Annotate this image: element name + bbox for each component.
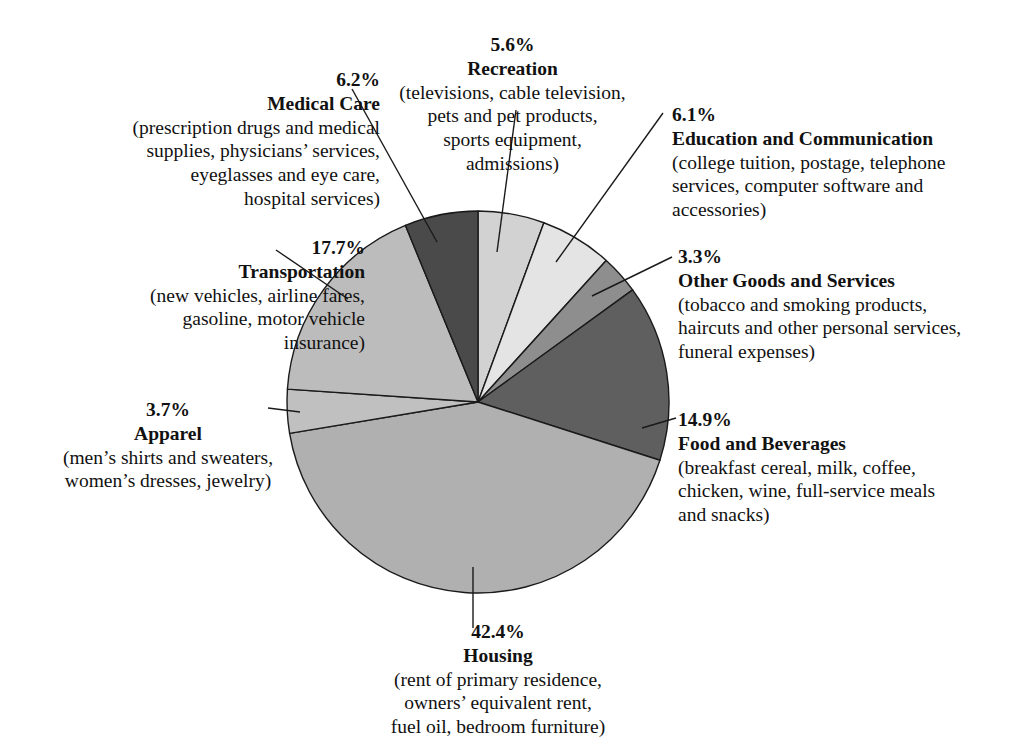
desc-other-goods-line2: haircuts and other personal services, (678, 316, 1008, 340)
label-medical-care: 6.2% Medical Care (prescription drugs an… (38, 68, 380, 211)
label-transportation: 17.7% Transportation (new vehicles, airl… (30, 236, 365, 355)
desc-other-goods-line3: funeral expenses) (678, 340, 1008, 364)
percent-food: 14.9% (678, 408, 1008, 432)
desc-education-line1: (college tuition, postage, telephone (672, 151, 1002, 175)
desc-transportation-line2: gasoline, motor vehicle (30, 307, 365, 331)
label-apparel: 3.7% Apparel (men’s shirts and sweaters,… (18, 398, 318, 493)
percent-housing: 42.4% (338, 620, 658, 644)
percent-medical-care: 6.2% (38, 68, 380, 92)
label-food-beverages: 14.9% Food and Beverages (breakfast cere… (678, 408, 1008, 527)
desc-other-goods-line1: (tobacco and smoking products, (678, 293, 1008, 317)
category-housing: Housing (338, 644, 658, 668)
category-apparel: Apparel (18, 422, 318, 446)
desc-housing-line1: (rent of primary residence, (338, 668, 658, 692)
desc-housing-line2: owners’ equivalent rent, (338, 691, 658, 715)
desc-recreation-line3: sports equipment, (370, 128, 655, 152)
category-food: Food and Beverages (678, 432, 1008, 456)
desc-medical-care-line1: (prescription drugs and medical (38, 116, 380, 140)
desc-apparel-line1: (men’s shirts and sweaters, (18, 446, 318, 470)
desc-education-line3: accessories) (672, 198, 1002, 222)
label-education-communication: 6.1% Education and Communication (colleg… (672, 103, 1002, 222)
desc-medical-care-line2: supplies, physicians’ services, (38, 139, 380, 163)
category-medical-care: Medical Care (38, 92, 380, 116)
desc-transportation-line1: (new vehicles, airline fares, (30, 284, 365, 308)
percent-transportation: 17.7% (30, 236, 365, 260)
category-other-goods: Other Goods and Services (678, 269, 1008, 293)
category-transportation: Transportation (30, 260, 365, 284)
category-recreation: Recreation (370, 57, 655, 81)
desc-food-line3: and snacks) (678, 503, 1008, 527)
label-housing: 42.4% Housing (rent of primary residence… (338, 620, 658, 739)
top-page-margin (0, 0, 1014, 14)
desc-apparel-line2: women’s dresses, jewelry) (18, 469, 318, 493)
label-recreation: 5.6% Recreation (televisions, cable tele… (370, 33, 655, 176)
desc-transportation-line3: insurance) (30, 331, 365, 355)
desc-housing-line3: fuel oil, bedroom furniture) (338, 715, 658, 739)
desc-food-line2: chicken, wine, full-service meals (678, 479, 1008, 503)
desc-recreation-line4: admissions) (370, 152, 655, 176)
desc-recreation-line2: pets and pet products, (370, 104, 655, 128)
category-education: Education and Communication (672, 127, 1002, 151)
percent-recreation: 5.6% (370, 33, 655, 57)
percent-education: 6.1% (672, 103, 1002, 127)
desc-education-line2: services, computer software and (672, 174, 1002, 198)
percent-apparel: 3.7% (18, 398, 318, 422)
desc-medical-care-line3: eyeglasses and eye care, (38, 163, 380, 187)
percent-other-goods: 3.3% (678, 245, 1008, 269)
desc-food-line1: (breakfast cereal, milk, coffee, (678, 456, 1008, 480)
desc-recreation-line1: (televisions, cable television, (370, 81, 655, 105)
pie-chart-figure: 6.2% Medical Care (prescription drugs an… (0, 0, 1014, 747)
label-other-goods-services: 3.3% Other Goods and Services (tobacco a… (678, 245, 1008, 364)
desc-medical-care-line4: hospital services) (38, 187, 380, 211)
